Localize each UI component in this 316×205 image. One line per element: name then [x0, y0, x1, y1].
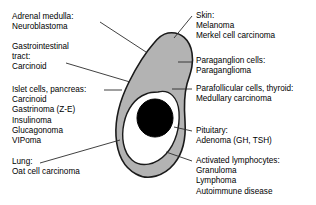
label-line: Adenoma (GH, TSH) — [196, 136, 272, 146]
label-line: Parafollicular cells, thyroid: — [196, 84, 293, 94]
label-line: Pituitary: — [196, 126, 272, 136]
label-line: Insulinoma — [12, 116, 86, 126]
label-line: Carcinoid — [12, 62, 69, 72]
leader-line-skin — [174, 16, 192, 38]
cell-nucleus — [137, 99, 173, 137]
label-line: Neuroblastoma — [12, 22, 73, 32]
label-parafollicular-cells-thyroid: Parafollicular cells, thyroid: Medullary… — [196, 84, 293, 104]
label-adrenal-medulla: Adrenal medulla: Neuroblastoma — [12, 12, 73, 32]
label-islet-cells-pancreas: Islet cells, pancreas: Carcinoid Gastrin… — [12, 85, 86, 146]
neuroendocrine-cell-diagram: Adrenal medulla: Neuroblastoma Gastroint… — [0, 0, 316, 205]
label-pituitary: Pituitary: Adenoma (GH, TSH) — [196, 126, 272, 146]
label-paraganglion-cells: Paraganglion cells: Paraganglioma — [196, 56, 265, 76]
label-activated-lymphocytes: Activated lymphocytes: Granuloma Lymphom… — [196, 156, 280, 197]
label-line: tract: — [12, 52, 69, 62]
label-line: Gastrinoma (Z-E) — [12, 105, 86, 115]
label-line: Adrenal medulla: — [12, 12, 73, 22]
label-skin: Skin: Melanoma Merkel cell carcinoma — [196, 11, 275, 42]
label-line: Skin: — [196, 11, 275, 21]
leader-line-adrenal-medulla — [100, 22, 146, 52]
label-line: Islet cells, pancreas: — [12, 85, 86, 95]
label-line: Glucagonoma — [12, 126, 86, 136]
label-line: Gastrointestinal — [12, 42, 69, 52]
label-line: VIPoma — [12, 136, 86, 146]
label-line: Paraganglioma — [196, 66, 265, 76]
label-line: Melanoma — [196, 21, 275, 31]
label-line: Merkel cell carcinoma — [196, 31, 275, 41]
label-gastrointestinal-tract: Gastrointestinal tract: Carcinoid — [12, 42, 69, 73]
leader-line-gastrointestinal-tract — [66, 63, 130, 82]
label-lung: Lung: Oat cell carcinoma — [12, 157, 80, 177]
label-line: Medullary carcinoma — [196, 94, 293, 104]
label-line: Lung: — [12, 157, 80, 167]
label-line: Carcinoid — [12, 95, 86, 105]
label-line: Granuloma — [196, 166, 280, 176]
label-line: Oat cell carcinoma — [12, 167, 80, 177]
label-line: Paraganglion cells: — [196, 56, 265, 66]
label-line: Lymphoma — [196, 176, 280, 186]
label-line: Activated lymphocytes: — [196, 156, 280, 166]
label-line: Autoimmune disease — [196, 187, 280, 197]
